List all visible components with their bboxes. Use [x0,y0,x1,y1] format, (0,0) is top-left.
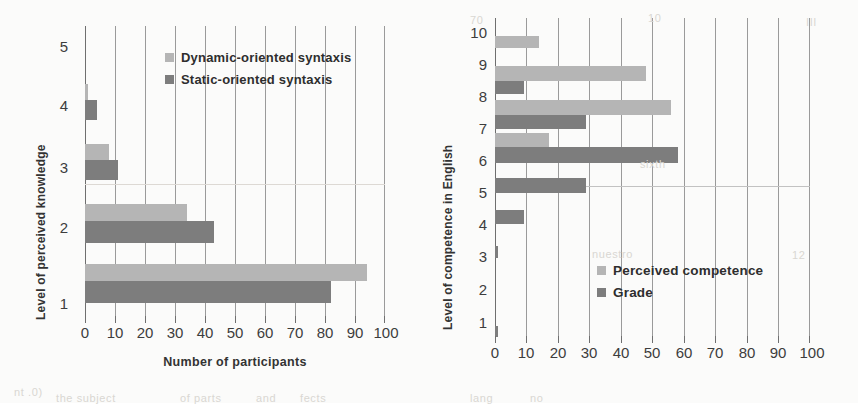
x-tickmark-70 [295,316,296,323]
gridline-100 [809,18,810,336]
x-tick-label-60: 60 [257,325,274,340]
x-tick-label-100: 100 [373,325,398,340]
y-tick-label-3: 3 [44,160,68,175]
scan-artifact-text: and [256,392,276,404]
scan-artifact-text: no [530,392,543,404]
legend-item-grade[interactable]: Grade [597,285,763,300]
x-tickmark-60 [684,336,685,343]
x-tick-label-60: 60 [676,345,693,360]
x-tick-label-70: 70 [287,325,304,340]
x-tick-label-80: 80 [317,325,334,340]
scan-artifact-text: III [806,16,817,28]
bar-perceived-level-7 [495,133,549,147]
bar-grade-level-4 [495,246,498,258]
x-tickmark-80 [747,336,748,343]
y-tick-label-2: 2 [44,220,68,235]
scan-artifact-text: 12 [792,249,805,261]
y-tick-label-10: 10 [461,25,487,40]
bar-static-level-1 [85,281,331,303]
y-tick-label-7: 7 [461,121,487,136]
x-tickmark-10 [526,336,527,343]
y-tick-label-2: 2 [461,282,487,297]
legend-label-static: Static-oriented syntaxis [181,72,332,87]
legend-swatch-dynamic-icon [165,53,174,62]
x-tickmark-30 [589,336,590,343]
legend-item-perceived-competence[interactable]: Perceived competence [597,263,763,278]
x-tickmark-100 [809,336,810,343]
bar-dynamic-level-1 [85,264,367,281]
y-tick-label-6: 6 [461,153,487,168]
x-tickmark-90 [355,316,356,323]
bar-grade-level-9 [495,81,524,94]
x-tick-label-100: 100 [799,345,824,360]
chart-perceived-knowledge: Level of perceived knowledge 1 2 3 4 5 [0,0,429,403]
legend-swatch-perceived-icon [597,266,606,275]
y-tick-label-9: 9 [461,57,487,72]
midline [85,184,385,185]
bar-grade-level-5 [495,210,524,224]
x-tick-label-50: 50 [227,325,244,340]
x-axis-title-left: Number of participants [85,355,385,369]
gridline-90 [778,18,779,336]
legend-label-dynamic: Dynamic-oriented syntaxis [181,50,351,65]
x-tick-label-0: 0 [81,325,89,340]
bar-dynamic-level-4 [85,84,88,100]
scan-artifact-text: the subject [56,392,116,404]
scan-artifact-text: nuestro [592,248,633,260]
bar-static-level-3 [85,160,118,180]
legend-item-dynamic[interactable]: Dynamic-oriented syntaxis [165,50,351,65]
y-tick-label-1: 1 [461,315,487,330]
x-tick-label-20: 20 [550,345,567,360]
x-tickmark-50 [652,336,653,343]
bar-static-level-4 [85,100,97,120]
bar-grade-level-8 [495,115,586,129]
y-axis-title-right: Level of competence in English [441,145,455,330]
chart-competence-english: Level of competence in English 1 2 3 4 5… [429,0,858,403]
y-tick-label-4: 4 [461,217,487,232]
legend-swatch-static-icon [165,75,174,84]
y-tick-label-5: 5 [461,185,487,200]
scan-artifact-text: 10 [648,12,661,24]
x-tick-label-0: 0 [491,345,499,360]
y-tick-label-1: 1 [44,296,68,311]
x-tickmark-60 [265,316,266,323]
x-tickmark-50 [235,316,236,323]
bar-perceived-level-9 [495,66,646,81]
x-tick-label-40: 40 [197,325,214,340]
scan-artifact-text: sixth [640,158,666,170]
legend-label-perceived: Perceived competence [613,263,763,278]
x-tick-label-10: 10 [107,325,124,340]
bar-perceived-level-8 [495,100,671,115]
x-tick-label-30: 30 [167,325,184,340]
bar-grade-level-6 [495,178,586,193]
scan-artifact-text: fects [300,392,326,404]
bar-perceived-level-10 [495,36,539,48]
bar-static-level-2 [85,221,214,243]
gridline-100 [384,26,385,316]
x-tickmark-0 [495,336,496,343]
x-tick-label-10: 10 [518,345,535,360]
x-tick-label-90: 90 [770,345,787,360]
scan-artifact-text: 70 [470,14,483,26]
y-tick-label-3: 3 [461,249,487,264]
x-tick-label-90: 90 [347,325,364,340]
bar-dynamic-level-2 [85,204,187,221]
x-tick-label-30: 30 [581,345,598,360]
legend-item-static[interactable]: Static-oriented syntaxis [165,72,351,87]
legend-swatch-grade-icon [597,288,606,297]
x-tick-label-70: 70 [707,345,724,360]
bar-dynamic-level-3 [85,144,109,160]
scan-artifact-text: lang [470,392,493,404]
scan-artifact-text: of parts [180,392,222,404]
scan-artifact-text: nt .0) [14,386,43,398]
x-tickmark-70 [715,336,716,343]
x-tick-label-40: 40 [613,345,630,360]
legend-left: Dynamic-oriented syntaxis Static-oriente… [165,50,351,94]
legend-right: Perceived competence Grade [597,263,763,307]
x-tickmark-100 [384,316,385,323]
x-tickmark-0 [85,316,86,323]
x-tick-label-50: 50 [644,345,661,360]
x-tickmark-20 [558,336,559,343]
x-tickmark-90 [778,336,779,343]
